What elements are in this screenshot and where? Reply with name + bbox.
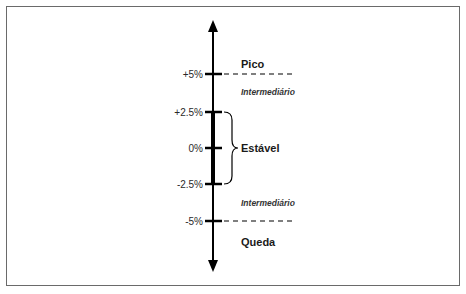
tick-label: -5% bbox=[185, 216, 203, 227]
zone-label-peak: Pico bbox=[241, 58, 265, 70]
tick-label: +5% bbox=[183, 69, 203, 80]
brace-icon bbox=[224, 112, 238, 184]
scale-diagram: +5% +2.5% 0% -2.5% -5% Pico Intermediári… bbox=[0, 0, 466, 294]
zone-label-drop: Queda bbox=[241, 236, 276, 248]
tick-label: -2.5% bbox=[177, 179, 203, 190]
zone-label-lower-intermediate: Intermediário bbox=[241, 198, 295, 208]
arrow-down-icon bbox=[208, 260, 218, 272]
arrow-up-icon bbox=[208, 20, 218, 32]
zone-label-stable: Estável bbox=[241, 142, 280, 154]
tick-label: +2.5% bbox=[174, 107, 203, 118]
zone-label-upper-intermediate: Intermediário bbox=[241, 87, 295, 97]
tick-label: 0% bbox=[189, 143, 204, 154]
